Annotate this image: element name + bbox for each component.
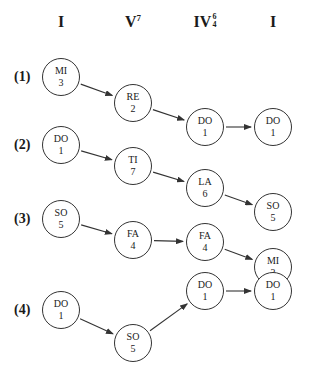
solfege-syllable: DO — [266, 115, 280, 127]
column-header-IV64: IV64 — [194, 13, 217, 31]
arrow — [81, 225, 112, 234]
scale-degree-node: DO1 — [186, 108, 224, 146]
column-header-I-final: I — [270, 13, 276, 31]
scale-degree-node: SO5 — [42, 200, 80, 238]
scale-degree-node: SO5 — [114, 324, 152, 362]
scale-degree-number: 1 — [59, 310, 64, 322]
scale-degree-node: LA6 — [186, 169, 224, 207]
scale-degree-number: 4 — [203, 242, 208, 254]
arrow — [225, 195, 252, 205]
solfege-syllable: DO — [266, 279, 280, 291]
scale-degree-node: DO1 — [254, 272, 292, 310]
scale-degree-number: 1 — [203, 291, 208, 303]
arrow — [154, 241, 183, 242]
scale-degree-number: 1 — [59, 145, 64, 157]
solfege-syllable: MI — [267, 255, 279, 267]
scale-degree-number: 6 — [203, 188, 208, 200]
scale-degree-number: 1 — [271, 127, 276, 139]
scale-degree-number: 3 — [59, 77, 64, 89]
scale-degree-number: 5 — [59, 219, 64, 231]
scale-degree-number: 7 — [131, 166, 136, 178]
solfege-syllable: FA — [199, 230, 211, 242]
scale-degree-node: TI7 — [114, 147, 152, 185]
solfege-syllable: SO — [127, 331, 140, 343]
arrow — [80, 319, 113, 334]
solfege-syllable: FA — [127, 228, 139, 240]
scale-degree-node: DO1 — [186, 272, 224, 310]
solfege-syllable: DO — [198, 115, 212, 127]
superscript-seven: 7 — [137, 13, 142, 23]
column-header-I: I — [58, 13, 64, 31]
scale-degree-node: DO1 — [42, 126, 80, 164]
row-label: (3) — [14, 211, 30, 227]
scale-degree-number: 5 — [131, 343, 136, 355]
solfege-syllable: LA — [198, 176, 211, 188]
solfege-syllable: RE — [127, 91, 140, 103]
arrow — [153, 172, 184, 181]
solfege-syllable: MI — [55, 65, 67, 77]
scale-degree-node: MI3 — [42, 58, 80, 96]
scale-degree-number: 4 — [131, 240, 136, 252]
arrow — [81, 84, 113, 95]
solfege-syllable: SO — [55, 207, 68, 219]
row-label: (1) — [14, 69, 30, 85]
solfege-syllable: SO — [267, 200, 280, 212]
scale-degree-node: FA4 — [186, 223, 224, 261]
solfege-syllable: DO — [54, 298, 68, 310]
row-label: (4) — [14, 302, 30, 318]
arrow — [150, 304, 187, 331]
scale-degree-node: FA4 — [114, 221, 152, 259]
column-header-V7: V7 — [125, 13, 141, 31]
figure-bottom: 4 — [212, 21, 216, 29]
arrow — [153, 110, 184, 120]
arrows-layer — [80, 84, 252, 334]
arrow — [81, 151, 112, 160]
scale-degree-node: SO5 — [254, 193, 292, 231]
scale-degree-node: RE2 — [114, 84, 152, 122]
scale-degree-node: DO1 — [42, 291, 80, 329]
scale-degree-node: DO1 — [254, 108, 292, 146]
arrow — [225, 249, 253, 259]
solfege-syllable: DO — [54, 133, 68, 145]
scale-degree-number: 1 — [271, 291, 276, 303]
scale-degree-number: 1 — [203, 127, 208, 139]
scale-degree-number: 5 — [271, 212, 276, 224]
scale-degree-number: 2 — [131, 103, 136, 115]
solfege-syllable: DO — [198, 279, 212, 291]
solfege-syllable: TI — [128, 154, 137, 166]
row-label: (2) — [14, 137, 30, 153]
